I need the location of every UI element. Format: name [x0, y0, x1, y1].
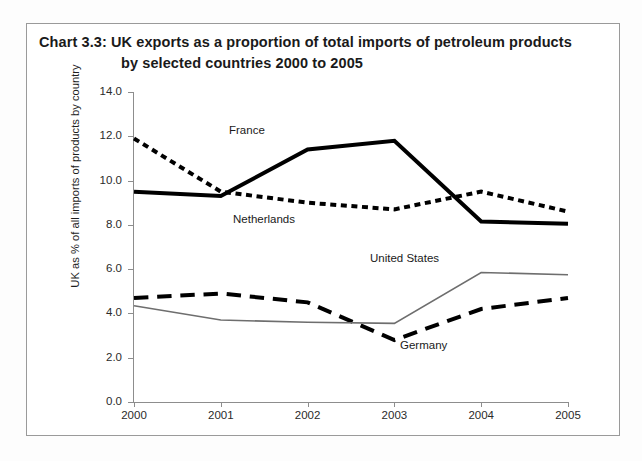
- x-axis-tick-mark: [481, 402, 482, 407]
- x-axis-tick-mark: [221, 402, 222, 407]
- chart-title: Chart 3.3: UK exports as a proportion of…: [39, 32, 611, 74]
- chart-page: Chart 3.3: UK exports as a proportion of…: [0, 0, 642, 461]
- y-axis-tick-label: 0.0: [76, 396, 122, 407]
- y-axis-tick-label: 8.0: [76, 219, 122, 230]
- plot-area: [134, 92, 568, 402]
- series-label-france: France: [229, 124, 265, 136]
- y-axis-tick-label: 12.0: [76, 130, 122, 141]
- series-label-netherlands: Netherlands: [233, 213, 295, 225]
- y-axis-tick-label: 10.0: [76, 175, 122, 186]
- series-label-germany: Germany: [400, 339, 447, 351]
- x-axis-tick-label: 2001: [191, 409, 251, 421]
- x-axis-tick-label: 2003: [364, 409, 424, 421]
- x-axis-tick-label: 2005: [538, 409, 598, 421]
- chart-title-line-2: by selected countries 2000 to 2005: [39, 53, 611, 74]
- y-axis-tick-label: 14.0: [76, 86, 122, 97]
- x-axis-tick-mark: [394, 402, 395, 407]
- x-axis-tick-label: 2002: [278, 409, 338, 421]
- chart-title-line-1: Chart 3.3: UK exports as a proportion of…: [39, 32, 611, 53]
- series-canvas: [134, 92, 568, 402]
- series-line-netherlands: [134, 139, 568, 212]
- x-axis-tick-mark: [568, 402, 569, 407]
- series-line-united-states: [134, 272, 568, 323]
- y-axis-tick-label: 2.0: [76, 352, 122, 363]
- y-axis-tick-label: 4.0: [76, 307, 122, 318]
- y-axis-tick-label: 6.0: [76, 263, 122, 274]
- series-line-france: [134, 141, 568, 224]
- x-axis-tick-label: 2004: [451, 409, 511, 421]
- x-axis-line: [133, 402, 569, 403]
- x-axis-tick-mark: [134, 402, 135, 407]
- x-axis-tick-label: 2000: [104, 409, 164, 421]
- series-label-united-states: United States: [370, 252, 439, 264]
- x-axis-tick-mark: [308, 402, 309, 407]
